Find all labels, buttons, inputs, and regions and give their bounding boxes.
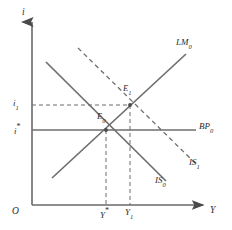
tick-label-i1: i1 xyxy=(13,99,19,110)
curve-label-is1: IS1 xyxy=(189,158,200,169)
curve-label-is0: IS0 xyxy=(155,176,166,187)
point-label-e0: E0 xyxy=(97,112,105,123)
is-lm-bp-figure: i Y O i1 i* Y* Y1 LM0 BP0 IS0 IS1 E0 E1 xyxy=(0,0,232,230)
curve-label-is1-sub: 1 xyxy=(197,163,200,170)
tick-label-istar-star: * xyxy=(17,122,21,131)
curve-label-bp0: BP0 xyxy=(199,122,213,133)
curve-label-bp0-sub: 0 xyxy=(210,127,213,134)
tick-label-Ystar: Y* xyxy=(100,208,109,220)
point-label-e1-sub: 1 xyxy=(128,89,131,96)
curve-is1 xyxy=(78,48,196,164)
point-e1-marker xyxy=(128,103,132,107)
y-axis-label: i xyxy=(22,8,25,18)
curve-label-is0-base: IS xyxy=(155,175,163,185)
curve-label-is0-sub: 0 xyxy=(163,181,166,188)
tick-label-Ystar-star: * xyxy=(105,206,109,215)
curve-label-lm0-sub: 0 xyxy=(189,43,192,50)
curve-label-lm0-base: LM xyxy=(176,37,189,47)
tick-label-Y1: Y1 xyxy=(125,208,133,219)
tick-label-Y1-sub: 1 xyxy=(130,213,133,220)
tick-label-i1-sub: 1 xyxy=(16,104,19,111)
tick-label-istar: i* xyxy=(14,124,21,136)
origin-label: O xyxy=(12,207,19,217)
diagram-canvas xyxy=(0,0,232,230)
point-e0-marker xyxy=(104,128,108,132)
point-label-e1: E1 xyxy=(123,84,131,95)
curve-is0 xyxy=(46,62,166,181)
x-axis-label: Y xyxy=(210,206,215,216)
curve-lm0 xyxy=(52,54,186,178)
curve-label-is1-base: IS xyxy=(189,157,197,167)
curve-label-bp0-base: BP xyxy=(199,121,210,131)
point-label-e0-sub: 0 xyxy=(102,117,105,124)
curve-label-lm0: LM0 xyxy=(176,38,192,49)
